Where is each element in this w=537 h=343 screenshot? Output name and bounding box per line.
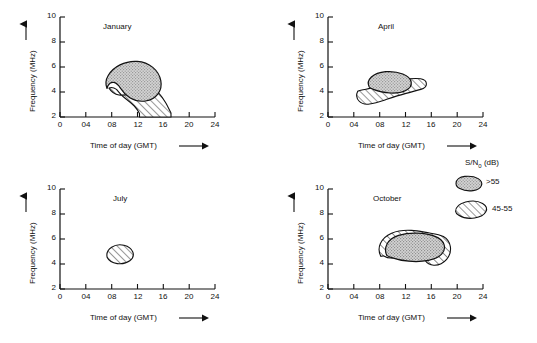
panel-january-xtick-16: 16 [154,120,172,129]
panel-october-xtick-12: 12 [397,292,415,301]
region-april-gt55 [368,72,411,94]
y-axis-ticks [328,189,333,289]
panel-april-ytick-8: 8 [308,36,324,45]
panel-july-xtick-16: 16 [154,292,172,301]
legend-title: S/N0 (dB) [465,158,499,169]
panel-july-xtick-04: 04 [77,292,95,301]
panel-january-ytick-6: 6 [40,61,56,70]
panel-july-xtick-0: 0 [51,292,69,301]
panel-october-ytick-2: 2 [308,283,324,292]
panel-january-xtick-20: 20 [180,120,198,129]
panel-october-ytick-8: 8 [308,208,324,217]
panel-july-xtick-12: 12 [129,292,147,301]
panel-april-xtick-0: 0 [319,120,337,129]
panel-april-x-axis-label: Time of day (GMT) [358,141,425,150]
panel-july: Frequency (MHz) [0,172,268,343]
panel-october-xtick-16: 16 [422,292,440,301]
panel-january-ytick-8: 8 [40,36,56,45]
panel-october-ytick-10: 10 [304,183,324,192]
panel-october-xtick-0: 0 [319,292,337,301]
figure-root: Frequency (MHz) [0,0,537,343]
panel-july-x-axis-label: Time of day (GMT) [90,313,157,322]
panel-october-x-axis-label: Time of day (GMT) [358,313,425,322]
legend-swatch-gt55 [456,176,482,191]
panel-october-xtick-20: 20 [448,292,466,301]
panel-july-ytick-8: 8 [40,208,56,217]
legend: S/N0 (dB) >55 45-55 [452,158,537,238]
panel-july-ytick-4: 4 [40,258,56,267]
panel-october-ytick-6: 6 [308,233,324,242]
legend-label-45-55: 45-55 [492,204,512,213]
y-axis-ticks [60,17,65,117]
panel-january-xtick-12: 12 [129,120,147,129]
panel-april-xtick-16: 16 [422,120,440,129]
legend-title-main: S/N [465,158,478,167]
region-january-gt55 [106,61,161,101]
panel-july-title: July [113,194,127,203]
panel-january-ytick-2: 2 [40,111,56,120]
panel-january-xtick-04: 04 [77,120,95,129]
x-axis-ticks [328,112,483,117]
panel-october-xtick-04: 04 [345,292,363,301]
legend-label-gt55: >55 [486,177,500,186]
x-axis-label-arrow-head [202,315,209,322]
panel-april-xtick-04: 04 [345,120,363,129]
legend-swatch-45-55 [456,201,487,218]
x-axis-ticks [328,284,483,289]
panel-january-xtick-08: 08 [103,120,121,129]
x-axis-ticks [60,112,215,117]
panel-july-ytick-10: 10 [36,183,56,192]
panel-april-ytick-2: 2 [308,111,324,120]
panel-april-xtick-24: 24 [474,120,492,129]
panel-october-ytick-4: 4 [308,258,324,267]
panel-january-ytick-4: 4 [40,86,56,95]
panel-april-ytick-4: 4 [308,86,324,95]
panel-april-xtick-20: 20 [448,120,466,129]
x-axis-label-arrow-head [470,143,477,150]
panel-october-title: October [373,194,401,203]
panel-october-xtick-08: 08 [371,292,389,301]
panel-january-xtick-24: 24 [206,120,224,129]
panel-july-ytick-6: 6 [40,233,56,242]
panel-july-xtick-08: 08 [103,292,121,301]
panel-january-ytick-10: 10 [36,11,56,20]
region-july-45-55 [107,245,133,264]
y-axis-ticks [60,189,65,289]
panel-april-xtick-08: 08 [371,120,389,129]
panel-april-title: April [378,22,394,31]
panel-april: Frequency (MHz) [268,0,536,172]
y-axis-ticks [328,17,333,117]
panel-january-xtick-0: 0 [51,120,69,129]
panel-january: Frequency (MHz) [0,0,268,172]
panel-january-x-axis-label: Time of day (GMT) [90,141,157,150]
x-axis-ticks [60,284,215,289]
legend-title-unit: (dB) [482,158,499,167]
panel-april-xtick-12: 12 [397,120,415,129]
region-october-gt55 [386,233,445,261]
panel-october-xtick-24: 24 [474,292,492,301]
panel-april-ytick-10: 10 [304,11,324,20]
panel-july-xtick-24: 24 [206,292,224,301]
x-axis-label-arrow-head [202,143,209,150]
panel-july-ytick-2: 2 [40,283,56,292]
x-axis-label-arrow-head [470,315,477,322]
panel-january-title: January [103,22,131,31]
panel-april-ytick-6: 6 [308,61,324,70]
panel-july-xtick-20: 20 [180,292,198,301]
